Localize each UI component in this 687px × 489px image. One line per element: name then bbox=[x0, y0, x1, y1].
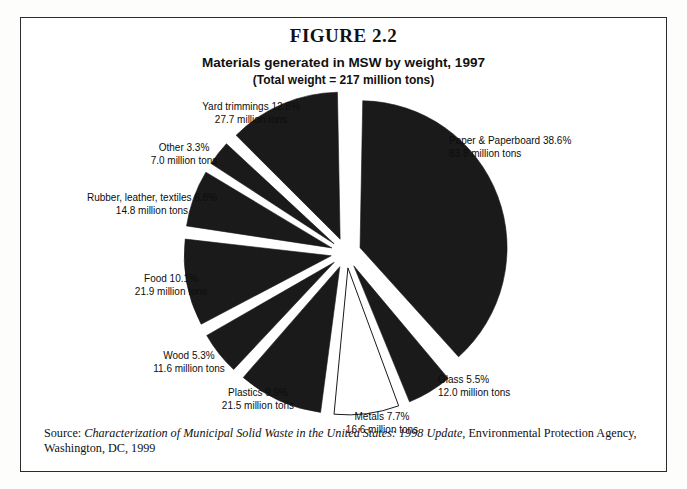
slice-label-rubber: Rubber, leather, textiles 6.8% 14.8 mill… bbox=[62, 192, 242, 217]
figure-frame: FIGURE 2.2 Materials generated in MSW by… bbox=[20, 17, 667, 472]
slice-label-glass-line1: Glass 5.5% bbox=[438, 374, 510, 387]
source-prefix: Source: bbox=[44, 426, 84, 440]
slice-label-food-line1: Food 10.1% bbox=[113, 273, 229, 286]
slice-label-food: Food 10.1% 21.9 million tons bbox=[113, 273, 229, 298]
slice-label-glass-line2: 12.0 million tons bbox=[438, 387, 510, 400]
slice-label-paper-line1: Paper & Paperboard 38.6% bbox=[449, 135, 571, 148]
slice-label-plastics: Plastics 9.9% 21.5 million tons bbox=[199, 387, 317, 412]
slice-label-wood-line1: Wood 5.3% bbox=[133, 350, 245, 363]
slice-label-plastics-line2: 21.5 million tons bbox=[199, 400, 317, 413]
slice-label-rubber-line1: Rubber, leather, textiles 6.8% bbox=[62, 192, 242, 205]
source-title: Characterization of Municipal Solid Wast… bbox=[84, 426, 462, 440]
source-note: Source: Characterization of Municipal So… bbox=[44, 426, 639, 456]
slice-label-yard: Yard trimmings 12.8% 27.7 million tons bbox=[176, 101, 326, 126]
pie-chart-svg bbox=[21, 18, 668, 418]
slice-label-yard-line2: 27.7 million tons bbox=[176, 114, 326, 127]
slice-label-food-line2: 21.9 million tons bbox=[113, 286, 229, 299]
slice-label-other: Other 3.3% 7.0 million tons bbox=[124, 142, 244, 167]
slice-label-plastics-line1: Plastics 9.9% bbox=[199, 387, 317, 400]
slice-label-glass: Glass 5.5% 12.0 million tons bbox=[438, 374, 510, 399]
slice-label-other-line2: 7.0 million tons bbox=[124, 155, 244, 168]
slice-label-paper: Paper & Paperboard 38.6% 83.8 million to… bbox=[449, 135, 571, 160]
pie-chart: Paper & Paperboard 38.6% 83.8 million to… bbox=[21, 18, 668, 418]
slice-label-other-line1: Other 3.3% bbox=[124, 142, 244, 155]
slice-label-wood-line2: 11.6 million tons bbox=[133, 363, 245, 376]
slice-label-metals-line1: Metals 7.7% bbox=[327, 411, 437, 424]
slice-label-yard-line1: Yard trimmings 12.8% bbox=[176, 101, 326, 114]
slice-label-paper-line2: 83.8 million tons bbox=[449, 148, 571, 161]
slice-label-rubber-line2: 14.8 million tons bbox=[62, 205, 242, 218]
slice-label-wood: Wood 5.3% 11.6 million tons bbox=[133, 350, 245, 375]
